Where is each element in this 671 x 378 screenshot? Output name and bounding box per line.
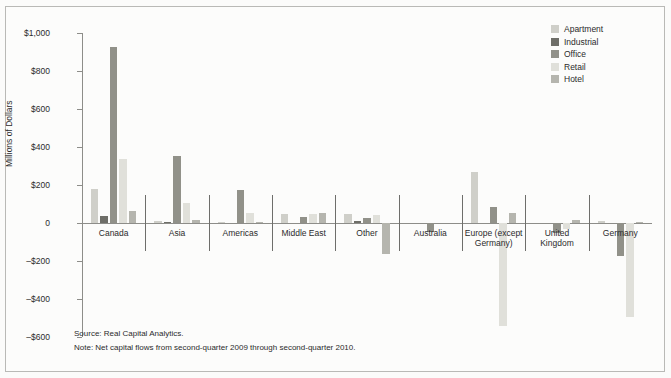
category-label-canada: Canada <box>82 228 145 238</box>
category-label-germany: Germany <box>589 228 652 238</box>
bar-apartment <box>154 221 162 223</box>
bar-hotel <box>256 222 264 223</box>
bar-hotel <box>572 220 580 223</box>
bar-office <box>363 218 371 223</box>
bar-industrial <box>354 221 362 223</box>
legend-label: Apartment <box>564 24 603 34</box>
legend-label: Hotel <box>564 74 584 84</box>
legend-label: Industrial <box>564 37 599 47</box>
y-tick-label: $600 <box>31 104 50 114</box>
y-tick-label: –$600 <box>26 332 50 342</box>
category-label-other: Other <box>335 228 398 238</box>
legend-swatch-icon <box>551 25 559 33</box>
y-tick-label: $1,000 <box>24 28 50 38</box>
y-tick-label: $200 <box>31 180 50 190</box>
bar-retail <box>246 213 254 223</box>
y-tick-label: $400 <box>31 142 50 152</box>
category-label-united: United Kingdom <box>525 228 588 248</box>
bar-industrial <box>164 222 172 223</box>
bar-office <box>237 190 245 223</box>
bar-apartment <box>344 214 352 223</box>
bar-office <box>173 156 181 223</box>
source-note: Source: Real Capital Analytics. <box>74 329 183 338</box>
category-label-europe-except: Europe (except Germany) <box>462 228 525 248</box>
bar-hotel <box>319 213 327 223</box>
bar-apartment <box>281 214 289 224</box>
legend-swatch-icon <box>551 75 559 83</box>
bar-office <box>490 207 498 223</box>
y-tick-label: –$400 <box>26 294 50 304</box>
bar-apartment <box>598 221 606 223</box>
legend-swatch-icon <box>551 50 559 58</box>
bar-apartment <box>218 222 226 223</box>
bar-hotel <box>509 213 517 223</box>
methodology-note: Note: Net capital flows from second-quar… <box>74 343 356 352</box>
bar-retail <box>373 215 381 223</box>
category-label-asia: Asia <box>145 228 208 238</box>
bar-hotel <box>192 220 200 223</box>
legend-item-office: Office <box>551 48 603 61</box>
legend-item-hotel: Hotel <box>551 73 603 86</box>
bar-retail <box>183 203 191 223</box>
bar-hotel <box>129 211 137 223</box>
y-tick-label: $800 <box>31 66 50 76</box>
bar-retail <box>119 159 127 223</box>
chart-frame: Millions of Dollars $1,000$800$600$400$2… <box>5 6 665 372</box>
legend-label: Retail <box>564 62 586 72</box>
bar-apartment <box>91 189 99 223</box>
legend-item-industrial: Industrial <box>551 36 603 49</box>
legend-swatch-icon <box>551 63 559 71</box>
legend-item-retail: Retail <box>551 61 603 74</box>
bar-office <box>300 217 308 223</box>
y-tick-label: –$200 <box>26 256 50 266</box>
bar-retail <box>309 214 317 224</box>
legend-label: Office <box>564 49 586 59</box>
category-label-australia: Australia <box>399 228 462 238</box>
bar-hotel <box>636 222 644 223</box>
category-label-americas: Americas <box>209 228 272 238</box>
chart-legend: ApartmentIndustrialOfficeRetailHotel <box>551 23 603 86</box>
y-tick-label: 0 <box>45 218 50 228</box>
bar-office <box>110 47 118 223</box>
bar-industrial <box>100 216 108 223</box>
category-label-middle-east: Middle East <box>272 228 335 238</box>
chart-page: Millions of Dollars $1,000$800$600$400$2… <box>0 0 671 378</box>
y-axis-title: Millions of Dollars <box>4 100 14 167</box>
bar-apartment <box>471 172 479 223</box>
legend-swatch-icon <box>551 38 559 46</box>
legend-item-apartment: Apartment <box>551 23 603 36</box>
